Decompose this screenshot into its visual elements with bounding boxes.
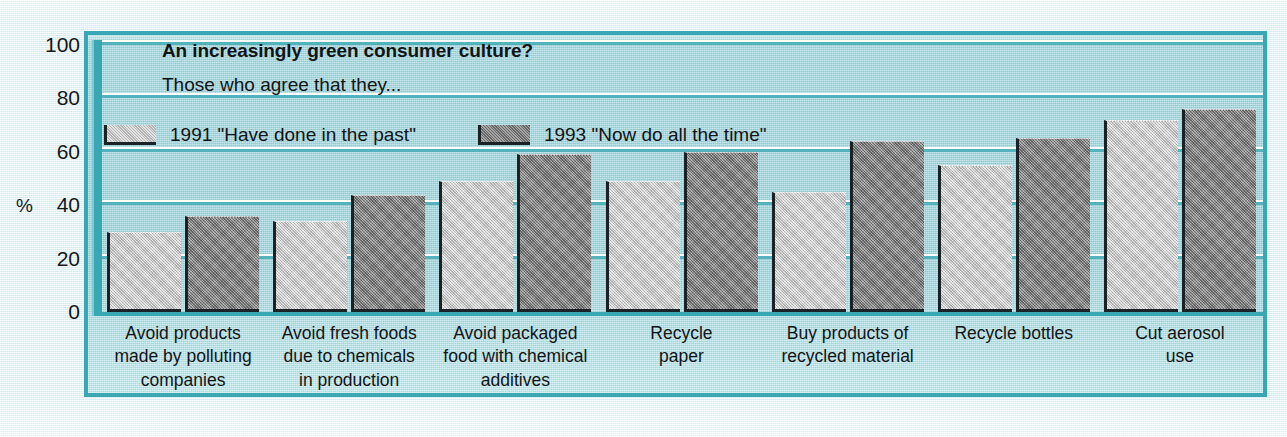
bar [351,195,425,312]
bar-group [772,45,924,312]
legend-item-1991: 1991 "Have done in the past" [104,124,416,146]
x-axis-label-line: use [1097,345,1263,368]
x-axis-label: Cut aerosoluse [1097,322,1263,369]
x-axis-label: Buy products ofrecycled material [765,322,931,369]
x-axis-label-line: paper [598,345,764,368]
bar-group [439,45,591,312]
bar [772,192,846,312]
x-axis-label-line: due to chemicals [266,345,432,368]
x-axis-label: Avoid packagedfood with chemicaladditive… [432,322,598,392]
legend-item-1993: 1993 "Now do all the time" [478,124,767,146]
y-tick-label-60: 60 [6,141,80,162]
legend-swatch-1993 [478,125,530,145]
legend-label-1991: 1991 "Have done in the past" [170,124,416,146]
bar [107,232,181,312]
bar [439,181,513,312]
x-axis-label: Avoid productsmade by pollutingcompanies [100,322,266,392]
x-axis-label-line: additives [432,369,598,392]
y-axis-unit-label: % [16,195,33,217]
bar [273,221,347,312]
x-axis-label-line: Recycle [598,322,764,345]
bar [517,154,591,312]
bar-group [1104,45,1256,312]
chart-subtitle: Those who agree that they... [162,74,401,96]
chart-legend: 1991 "Have done in the past" 1993 "Now d… [104,124,767,146]
x-axis-label-line: recycled material [765,345,931,368]
x-axis-label: Avoid fresh foodsdue to chemicalsin prod… [266,322,432,392]
bar [185,216,259,312]
x-axis-label-line: in production [266,369,432,392]
bar [850,141,924,312]
bar-group [606,45,758,312]
y-axis-labels: 100806040%200 [0,0,80,437]
x-axis-baseline [100,312,1263,316]
x-axis-label-line: Avoid packaged [432,322,598,345]
x-axis-label-line: Cut aerosol [1097,322,1263,345]
bar [606,181,680,312]
bar [1182,109,1256,312]
legend-label-1993: 1993 "Now do all the time" [544,124,767,146]
y-tick-label-100: 100 [6,34,80,55]
x-axis-label: Recycle bottles [931,322,1097,345]
bar [938,165,1012,312]
bar [684,152,758,312]
legend-swatch-1991 [104,125,156,145]
y-tick-label-80: 80 [6,87,80,108]
x-axis-label-line: companies [100,369,266,392]
x-axis-label-line: Avoid fresh foods [266,322,432,345]
chart-title: An increasingly green consumer culture? [162,40,533,62]
bar-group [938,45,1090,312]
x-axis-label: Recyclepaper [598,322,764,369]
x-axis-label-line: made by polluting [100,345,266,368]
bar [1016,138,1090,312]
y-tick-label-0: 0 [6,301,80,322]
x-axis-label-line: Avoid products [100,322,266,345]
x-axis-label-line: Buy products of [765,322,931,345]
x-axis-label-line: Recycle bottles [931,322,1097,345]
y-tick-label-20: 20 [6,248,80,269]
x-axis-category-labels: Avoid productsmade by pollutingcompanies… [100,322,1263,402]
x-axis-label-line: food with chemical [432,345,598,368]
screenshot-root: 100806040%200 An increasingly green cons… [0,0,1287,437]
bar [1104,120,1178,312]
